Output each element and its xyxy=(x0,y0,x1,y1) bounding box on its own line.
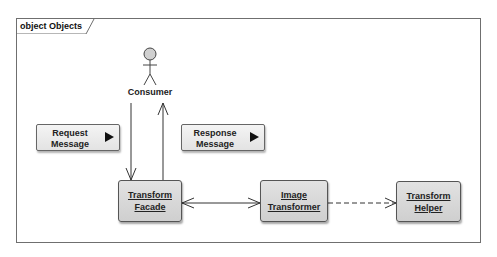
request-message-line1: Request xyxy=(37,128,103,139)
response-message-line2: Message xyxy=(182,139,248,150)
response-connector[interactable] xyxy=(158,103,168,180)
object-name-line1: Transform xyxy=(128,189,172,201)
request-message[interactable]: Request Message xyxy=(36,124,120,151)
request-connector[interactable] xyxy=(126,103,136,180)
request-message-line2: Message xyxy=(37,139,103,150)
transformer-helper-dependency[interactable] xyxy=(328,198,396,208)
object-name-line2: Helper xyxy=(414,202,442,214)
right-triangle-icon xyxy=(105,132,114,142)
object-name-line1: Image xyxy=(281,189,307,201)
stick-figure-icon xyxy=(143,48,157,85)
object-transform-facade[interactable]: Transform Facade xyxy=(118,180,182,222)
actor-consumer-label[interactable]: Consumer xyxy=(125,87,175,97)
right-triangle-icon xyxy=(250,132,259,142)
object-name-line2: Transformer xyxy=(268,201,321,213)
facade-transformer-connector[interactable] xyxy=(182,198,260,208)
object-transform-helper[interactable]: Transform Helper xyxy=(396,181,461,222)
object-name-line2: Facade xyxy=(134,201,165,213)
response-message-line1: Response xyxy=(182,128,248,139)
response-message[interactable]: Response Message xyxy=(181,124,265,151)
object-image-transformer[interactable]: Image Transformer xyxy=(260,180,328,222)
object-name-line1: Transform xyxy=(406,190,450,202)
